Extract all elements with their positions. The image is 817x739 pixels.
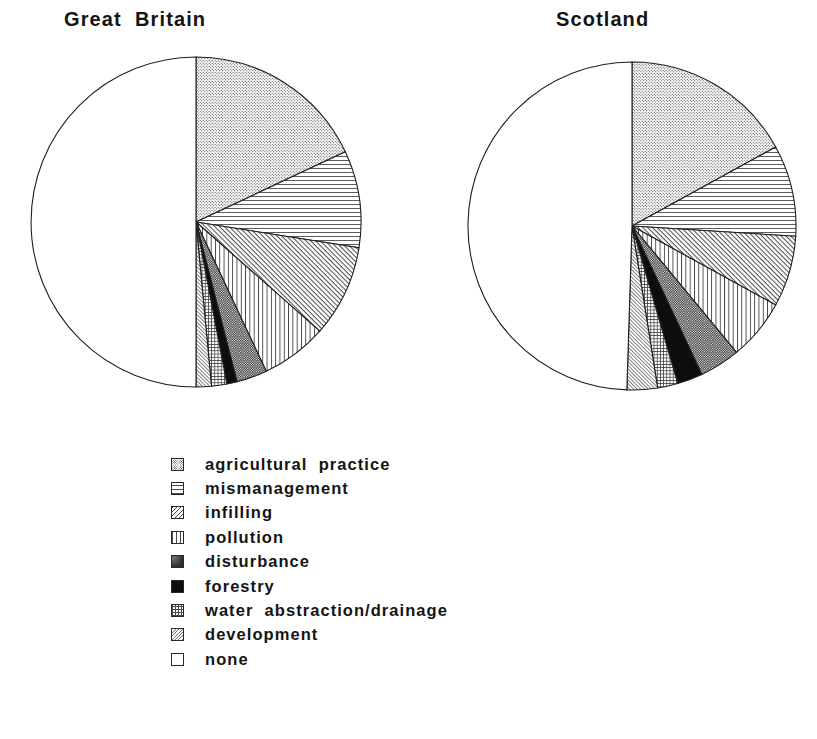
- chart-title-scotland: Scotland: [556, 8, 649, 31]
- legend-item-agricultural-practice: agricultural practice: [171, 452, 448, 476]
- pie-slices-great-britain: [31, 57, 361, 387]
- legend-item-disturbance: disturbance: [171, 550, 448, 574]
- legend-item-pollution: pollution: [171, 525, 448, 549]
- legend-item-label: mismanagement: [205, 479, 349, 498]
- cross-grid-swatch: [171, 604, 184, 617]
- horizontal-lines-swatch: [171, 482, 184, 495]
- legend-item-development: development: [171, 623, 448, 647]
- legend-item-forestry: forestry: [171, 574, 448, 598]
- light-diagonal-swatch: [171, 628, 184, 641]
- fine-stipple-swatch: [171, 458, 184, 471]
- legend-item-label: infilling: [205, 503, 273, 522]
- legend-item-label: none: [205, 650, 249, 669]
- vertical-lines-swatch: [171, 531, 184, 544]
- chart-title-great-britain: Great Britain: [64, 8, 206, 31]
- dark-stipple-swatch: [171, 555, 184, 568]
- legend-item-mismanagement: mismanagement: [171, 476, 448, 500]
- legend-item-label: pollution: [205, 528, 284, 547]
- legend-item-label: forestry: [205, 577, 275, 596]
- empty-white-swatch: [171, 653, 184, 666]
- pie-slices-scotland: [468, 62, 796, 390]
- legend-item-infilling: infilling: [171, 501, 448, 525]
- solid-black-swatch: [171, 580, 184, 593]
- pie-slice-none: [468, 62, 632, 390]
- pie-chart-great-britain: [0, 40, 400, 400]
- pie-chart-figure: Great Britain Scotland: [0, 0, 817, 739]
- legend-item-label: water abstraction/drainage: [205, 601, 448, 620]
- diagonal-hatch-swatch: [171, 506, 184, 519]
- legend-item-none: none: [171, 647, 448, 671]
- pie-slice-none: [31, 57, 196, 387]
- legend-item-label: agricultural practice: [205, 455, 390, 474]
- legend-item-label: development: [205, 625, 318, 644]
- legend: agricultural practicemismanagementinfill…: [171, 452, 448, 672]
- pie-chart-scotland: [436, 44, 817, 404]
- legend-item-label: disturbance: [205, 552, 310, 571]
- legend-item-water-abstraction-drainage: water abstraction/drainage: [171, 598, 448, 622]
